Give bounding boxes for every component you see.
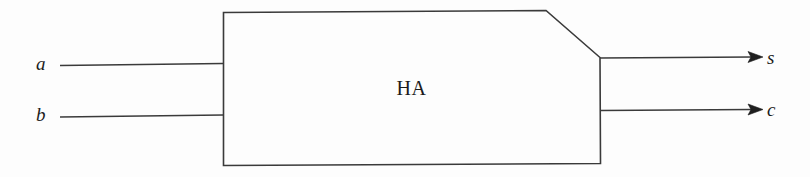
output-wire-c [600,110,752,111]
output-wire-s [600,57,752,58]
input-wire-b [60,115,223,117]
output-label-c: c [767,100,775,119]
half-adder-block-label: HA [223,78,600,98]
output-label-s: s [767,48,774,67]
input-wire-a [60,64,223,66]
half-adder-figure: a b s c HA [0,0,810,177]
input-label-b: b [36,105,46,124]
input-label-a: a [36,54,46,73]
